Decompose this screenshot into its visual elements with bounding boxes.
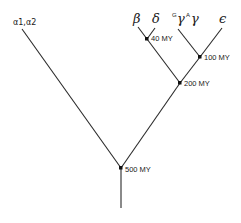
branch-alpha xyxy=(22,29,121,168)
node-40-label: 40 MY xyxy=(151,34,173,43)
branch-200-40 xyxy=(147,39,180,83)
branch-gamma xyxy=(178,29,200,57)
leaf-g-gamma-label: γ xyxy=(177,11,185,26)
node-200-label: 200 MY xyxy=(184,79,210,88)
branch-500-200 xyxy=(121,83,180,168)
node-200-marker xyxy=(178,81,182,85)
leaf-alpha-label: α1,α2 xyxy=(13,18,36,27)
node-40-marker xyxy=(145,37,149,41)
leaf-a-gamma-label: γ xyxy=(191,11,199,26)
leaf-delta-label: δ xyxy=(152,11,160,26)
leaf-beta-label: β xyxy=(132,11,141,26)
node-500-marker xyxy=(119,166,123,170)
node-100-label: 100 MY xyxy=(204,53,230,62)
node-500-label: 500 MY xyxy=(125,165,151,174)
globin-gene-tree: 40 MY 100 MY 200 MY 500 MY α1,α2 β δ G γ… xyxy=(0,0,241,223)
node-100-marker xyxy=(198,55,202,59)
leaf-a-gamma-sup: A xyxy=(186,12,190,18)
leaf-epsilon-label: ϵ xyxy=(219,11,227,26)
